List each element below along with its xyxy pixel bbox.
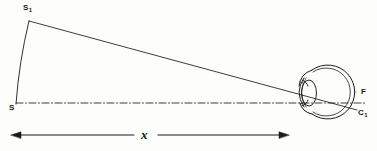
- figure-background: [0, 0, 377, 151]
- label-distance-x: x: [141, 128, 148, 141]
- label-object-bottom: S: [9, 104, 15, 112]
- optics-figure: S1 S F C1 x: [0, 0, 377, 151]
- label-image-point: C1: [358, 109, 368, 117]
- label-object-top-text: S: [23, 3, 29, 12]
- label-fovea: F: [361, 88, 366, 96]
- label-object-top-subscript: 1: [29, 7, 33, 13]
- figure-canvas: [0, 0, 377, 151]
- label-image-point-subscript: 1: [364, 112, 368, 118]
- label-object-top: S1: [23, 4, 32, 12]
